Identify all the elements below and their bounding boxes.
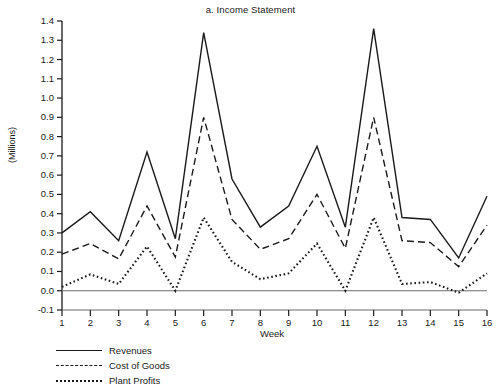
legend-line-swatch-icon [56,375,102,387]
legend-line-swatch-icon [56,345,102,357]
legend-item: Revenues [56,343,170,358]
legend-item-label: Cost of Goods [109,360,170,371]
income-statement-chart: a. Income Statement (Millions) 1.41.31.2… [0,0,501,392]
series-line-cost-of-goods [62,117,487,266]
legend-item-label: Plant Profits [109,375,160,386]
series-line-plant-profits [62,218,487,293]
legend-line-swatch-icon [56,360,102,372]
series-line-revenues [62,29,487,258]
x-axis-label: Week [52,328,492,339]
legend-item-label: Revenues [109,345,152,356]
legend-item: Plant Profits [56,373,170,388]
legend-item: Cost of Goods [56,358,170,373]
chart-legend: RevenuesCost of GoodsPlant Profits [56,343,170,388]
